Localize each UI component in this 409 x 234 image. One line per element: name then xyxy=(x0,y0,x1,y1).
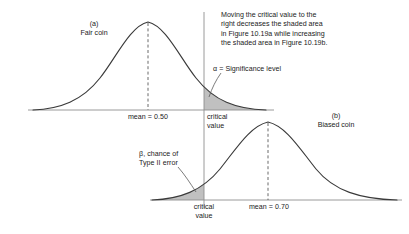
statistics-figure: (a) Fair coin (b) Biased coin Moving the… xyxy=(0,0,409,234)
curve-biased-coin xyxy=(152,122,397,200)
critical-value-label-a: critical value xyxy=(207,113,228,130)
panel-a-name: Fair coin xyxy=(58,29,130,38)
note-line-3: in Figure 10.19a while increasing xyxy=(221,30,327,39)
beta-shaded-region xyxy=(152,122,397,200)
critical-value-label-b: critical value xyxy=(180,203,228,220)
note-line-1: Moving the critical value to the xyxy=(221,11,327,20)
panel-b-name: Biased coin xyxy=(297,121,375,130)
critical-value-label-b-line-2: value xyxy=(180,212,228,221)
alpha-significance-label: α = Significance level xyxy=(213,65,281,74)
explanatory-note: Moving the critical value to the right d… xyxy=(221,11,327,49)
beta-type-ii-error-label: β, chance of Type II error xyxy=(139,150,178,167)
mean-label-b: mean = 0.70 xyxy=(229,203,309,212)
panel-a-tag: (a) xyxy=(58,20,130,29)
beta-label-line-2: Type II error xyxy=(139,159,178,168)
beta-label-line-1: β, chance of xyxy=(139,150,178,159)
panel-b-tag: (b) xyxy=(297,112,375,121)
beta-leader-line xyxy=(178,167,196,192)
critical-value-label-a-line-2: value xyxy=(207,122,228,131)
critical-value-label-b-line-1: critical xyxy=(180,203,228,212)
note-line-4: the shaded area in Figure 10.19b. xyxy=(221,39,327,48)
panel-b-caption: (b) Biased coin xyxy=(297,112,375,130)
panel-a-caption: (a) Fair coin xyxy=(58,20,130,38)
mean-label-a: mean = 0.50 xyxy=(108,113,188,122)
note-line-2: right decreases the shaded area xyxy=(221,20,327,29)
critical-value-label-a-line-1: critical xyxy=(207,113,228,122)
